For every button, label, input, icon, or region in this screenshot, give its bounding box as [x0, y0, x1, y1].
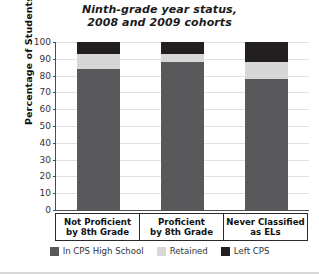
- y-axis-tick-label: 40: [40, 138, 51, 148]
- y-axis-tick-mark: [53, 42, 56, 43]
- y-axis-tick-label: 10: [40, 188, 51, 198]
- y-axis-tick-mark: [53, 126, 56, 127]
- bar-segment: [77, 54, 120, 69]
- stacked-bar: [245, 42, 288, 210]
- y-axis-tick-mark: [53, 193, 56, 194]
- chart-figure: Ninth-grade year status, 2008 and 2009 c…: [0, 0, 319, 274]
- y-axis-tick-label: 90: [40, 54, 51, 64]
- bar-segment: [245, 79, 288, 210]
- y-axis-tick-mark: [53, 76, 56, 77]
- y-axis-tick-mark: [53, 143, 56, 144]
- y-axis-title: Percentage of Students: [23, 0, 34, 141]
- stacked-bar: [161, 42, 204, 210]
- y-axis-tick-label: 70: [40, 87, 51, 97]
- legend-swatch-icon: [157, 247, 166, 256]
- x-axis-category-line: Not Proficient: [64, 217, 131, 228]
- bar-segment: [245, 62, 288, 79]
- stacked-bar: [77, 42, 120, 210]
- y-axis-tick-mark: [53, 210, 56, 211]
- x-axis-category-3: Never Classifiedas ELs: [224, 214, 307, 240]
- bar-segment: [161, 54, 204, 62]
- x-axis-category-line: by 8th Grade: [150, 227, 213, 238]
- bar-segment: [161, 42, 204, 54]
- x-axis-category-boxes: Not Proficientby 8th GradeProficientby 8…: [55, 213, 308, 241]
- y-axis-tick-label: 50: [40, 121, 51, 131]
- x-axis-category-2: Proficientby 8th Grade: [140, 214, 224, 240]
- bar-segment: [245, 42, 288, 62]
- legend-swatch-icon: [221, 247, 230, 256]
- chart-title-line-1: Ninth-grade year status,: [0, 3, 319, 16]
- y-axis-tick-label: 100: [34, 37, 51, 47]
- legend-label: In CPS High School: [63, 246, 144, 256]
- y-axis-tick-label: 30: [40, 155, 51, 165]
- chart-title-line-2: 2008 and 2009 cohorts: [0, 16, 319, 29]
- legend-swatch-icon: [50, 247, 59, 256]
- legend-item-1[interactable]: In CPS High School: [50, 246, 144, 256]
- legend-item-3[interactable]: Left CPS: [221, 246, 270, 256]
- x-axis-category-line: by 8th Grade: [64, 227, 131, 238]
- x-axis-category-1: Not Proficientby 8th Grade: [56, 214, 140, 240]
- y-axis-tick-mark: [53, 109, 56, 110]
- x-axis-category-line: Never Classified: [226, 217, 304, 228]
- chart-title: Ninth-grade year status, 2008 and 2009 c…: [0, 3, 319, 29]
- y-axis-tick-mark: [53, 160, 56, 161]
- y-axis-tick-mark: [53, 59, 56, 60]
- x-axis-category-line: as ELs: [226, 227, 304, 238]
- x-axis-category-line: Proficient: [150, 217, 213, 228]
- y-axis-tick-label: 60: [40, 104, 51, 114]
- chart-legend: In CPS High SchoolRetainedLeft CPS: [0, 246, 319, 256]
- plot-area: 0102030405060708090100: [55, 42, 309, 211]
- bar-segment: [77, 42, 120, 54]
- y-axis-tick-label: 80: [40, 71, 51, 81]
- legend-label: Retained: [170, 246, 208, 256]
- bar-segment: [77, 69, 120, 210]
- legend-item-2[interactable]: Retained: [157, 246, 208, 256]
- y-axis-tick-mark: [53, 92, 56, 93]
- bar-segment: [161, 62, 204, 210]
- y-axis-tick-label: 20: [40, 171, 51, 181]
- legend-label: Left CPS: [234, 246, 270, 256]
- y-axis-tick-mark: [53, 176, 56, 177]
- y-axis-tick-label: 0: [45, 205, 51, 215]
